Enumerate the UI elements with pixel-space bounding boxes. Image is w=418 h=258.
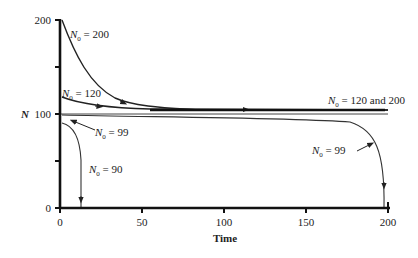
svg-text:N0 = 99: N0 = 99 — [94, 126, 129, 141]
x-tick-200: 200 — [380, 216, 397, 228]
x-tick-150: 150 — [298, 216, 315, 228]
label-n0-120-and-200: N0 = 120 and 200 — [327, 94, 405, 109]
label-n0-99-right: N0 = 99 — [311, 144, 371, 159]
x-tick-0: 0 — [57, 216, 63, 228]
chart: 200 100 0 0 50 100 150 200 Time N N0 = 2… — [0, 0, 418, 258]
svg-text:N0 = 120 and 200: N0 = 120 and 200 — [327, 94, 405, 109]
svg-text:N0 = 99: N0 = 99 — [311, 144, 346, 159]
svg-text:N0 = 200: N0 = 200 — [69, 28, 110, 43]
curve-n0-90 — [62, 123, 81, 208]
label-n0-200: N0 = 200 — [69, 28, 110, 43]
svg-text:N0 = 90: N0 = 90 — [88, 163, 123, 178]
y-axis-label: N — [20, 108, 30, 120]
x-tick-100: 100 — [216, 216, 233, 228]
label-n0-120: N0 = 120 — [61, 87, 102, 102]
x-tick-50: 50 — [137, 216, 149, 228]
label-n0-99-left: N0 = 99 — [73, 121, 129, 141]
y-tick-100: 100 — [35, 108, 52, 120]
label-n0-90: N0 = 90 — [88, 163, 123, 178]
x-axis-label: Time — [213, 232, 237, 244]
svg-text:N0 = 120: N0 = 120 — [61, 87, 102, 102]
y-tick-200: 200 — [35, 14, 52, 26]
y-tick-0: 0 — [46, 202, 52, 214]
